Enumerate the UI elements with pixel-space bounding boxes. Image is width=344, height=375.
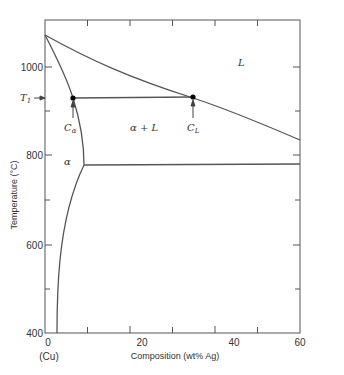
liquidus-curve — [45, 35, 300, 140]
y-tick-1000: 1000 — [21, 62, 44, 73]
y-tick-600: 600 — [26, 240, 43, 251]
region-liquid-label: L — [237, 57, 245, 68]
x-tick-0: 0 — [45, 337, 51, 348]
c-alpha-label: Cα — [64, 122, 77, 135]
x-axis-ticks — [88, 20, 258, 333]
eutectic-isotherm — [84, 164, 300, 165]
t1-arrow — [34, 96, 45, 100]
x-sublabel-cu: (Cu) — [39, 351, 58, 362]
y-axis-title: Temperature (°C) — [9, 160, 19, 229]
x-tick-20: 20 — [136, 337, 148, 348]
x-tick-40: 40 — [228, 337, 240, 348]
x-tick-60: 60 — [294, 337, 306, 348]
tie-line-t1 — [73, 97, 193, 98]
solvus-curve — [57, 165, 84, 333]
region-alpha-liquid-label: α + L — [130, 122, 158, 133]
y-tick-400: 400 — [26, 328, 43, 339]
c-l-label: CL — [187, 122, 200, 135]
t1-label: T1 — [20, 92, 31, 105]
y-axis-ticks — [45, 67, 300, 289]
region-alpha-label: α — [64, 156, 71, 167]
x-axis-title: Composition (wt% Ag) — [131, 351, 220, 361]
solidus-curve — [45, 35, 84, 165]
plot-frame — [45, 20, 300, 333]
y-tick-800: 800 — [26, 150, 43, 161]
phase-diagram: 400 600 800 1000 0 20 40 60 (Cu) Composi… — [0, 0, 344, 375]
c-l-arrow — [191, 100, 195, 118]
